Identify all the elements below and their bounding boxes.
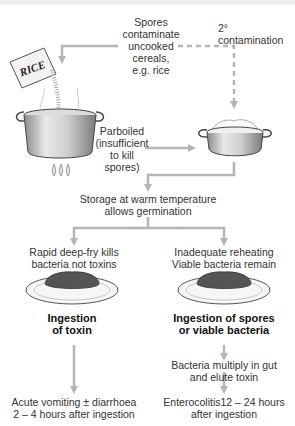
label-line: spores) [94,161,150,173]
reheating-label: Inadequate reheating Viable bacteria rem… [164,246,284,270]
rice-bag-icon: RICE [10,48,59,118]
secondary-contamination-label: 2° contamination [218,22,283,46]
label-line: Viable bacteria remain [164,258,284,270]
ingestion-of-spores-label: Ingestion of spores or viable bacteria [164,312,284,336]
acute-vomiting-label: Acute vomiting ± diarrhoea 2 – 4 hours a… [4,396,144,420]
storage-label: Storage at warm temperature allows germi… [48,193,248,217]
label-line: e.g. rice [120,64,182,76]
label-line: Ingestion of spores [164,312,284,324]
enterocolitis-label: Enterocolitis12 – 24 hours after ingesti… [158,396,290,420]
label-line: Enterocolitis12 – 24 hours [158,396,290,408]
label-line: Spores [120,16,182,28]
label-line: uncooked [120,40,182,52]
label-line: bacteria not toxins [14,258,134,270]
label-line: cereals, [120,52,182,64]
serving-pan-icon [199,120,272,156]
label-line: after ingestion [158,408,290,420]
arrow-secondary-contamination [178,46,234,105]
stock-pot-icon [17,88,104,158]
arrow-pan-to-storage [148,162,234,188]
label-line: and elute toxin [164,371,284,383]
label-line: contaminate [120,28,182,40]
deep-fry-label: Rapid deep-fry kills bacteria not toxins [14,246,134,270]
label-line: (insufficient [94,137,150,149]
label-line: Bacteria multiply in gut [164,359,284,371]
arrow-spores-to-rice [62,46,118,60]
spores-contaminate-label: Spores contaminate uncooked cereals, e.g… [120,16,182,76]
label-line: Ingestion [22,312,122,324]
label-line: 2° [218,22,283,34]
ingestion-of-toxin-label: Ingestion of toxin [22,312,122,336]
arrow-storage-split [74,217,224,242]
parboiled-label: Parboiled (insufficient to kill spores) [94,125,150,173]
label-line: Rapid deep-fry kills [14,246,134,258]
label-line: of toxin [22,324,122,336]
label-line: Inadequate reheating [164,246,284,258]
label-line: to kill [94,149,150,161]
plate-of-rice-icon [26,272,118,304]
plate-of-rice-icon [178,272,270,304]
label-line: Parboiled [94,125,150,137]
label-line: contamination [218,34,283,46]
label-line: Storage at warm temperature [48,193,248,205]
label-line: Acute vomiting ± diarrhoea [4,396,144,408]
label-line: allows germination [48,205,248,217]
label-line: 2 – 4 hours after ingestion [4,408,144,420]
bacteria-multiply-label: Bacteria multiply in gut and elute toxin [164,359,284,383]
gas-flame-icon [52,164,70,176]
label-line: or viable bacteria [164,324,284,336]
